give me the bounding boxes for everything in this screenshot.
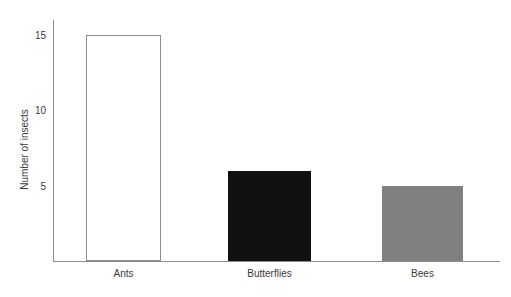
plot-area xyxy=(0,0,511,297)
bar-chart: 15 10 5 Number of insects Ants Butterfli… xyxy=(0,0,511,297)
bar-butterflies xyxy=(228,171,311,261)
x-label-butterflies: Butterflies xyxy=(247,268,291,279)
x-label-ants: Ants xyxy=(113,268,133,279)
bar-bees xyxy=(382,186,463,261)
x-label-bees: Bees xyxy=(411,268,434,279)
bar-ants xyxy=(86,35,161,261)
